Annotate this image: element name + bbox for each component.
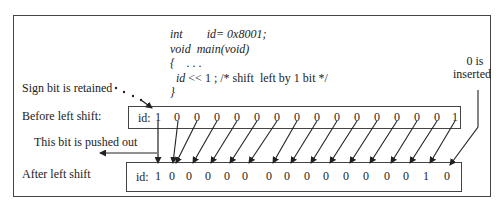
sign-bit-pointer	[115, 87, 142, 101]
bit-shift-arrows	[173, 121, 455, 163]
zero-inserted-arrow	[450, 90, 478, 165]
shift-arrows	[0, 0, 501, 208]
